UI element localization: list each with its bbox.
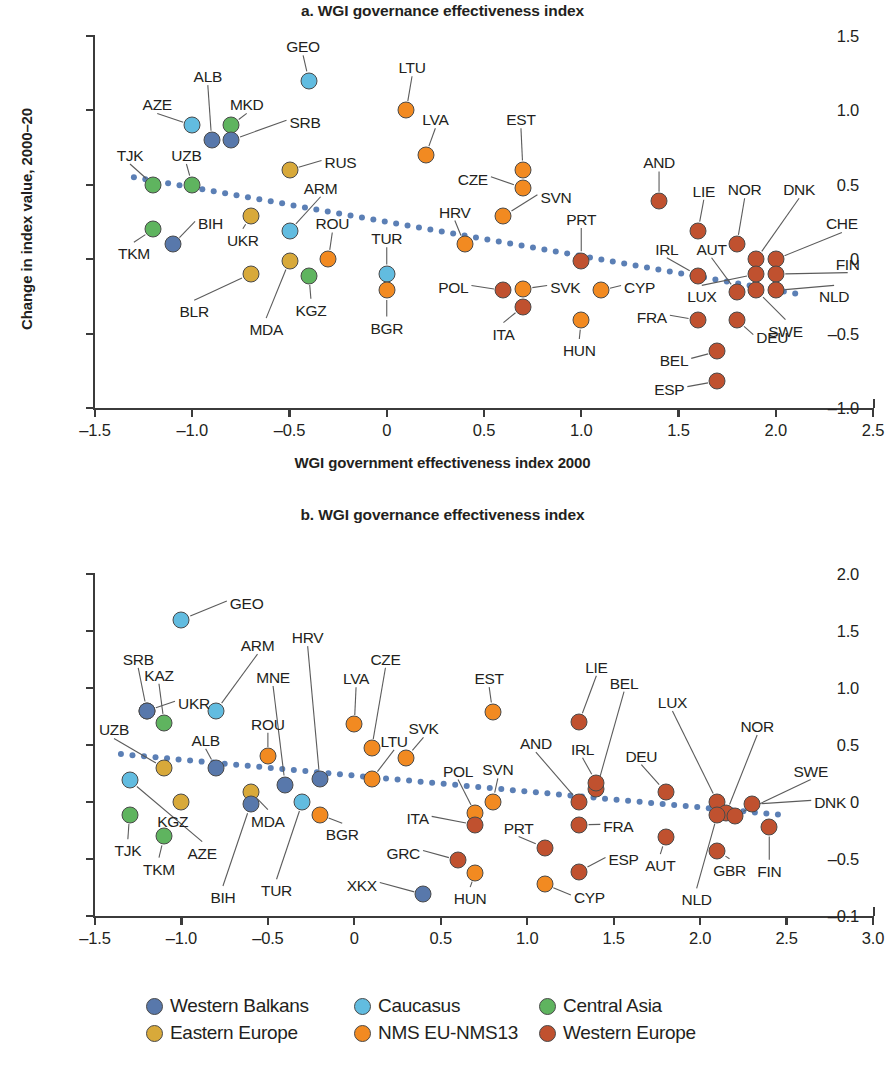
data-point-ukr-panel-a[interactable] [242, 208, 259, 225]
data-point-tjk-panel-b[interactable] [121, 806, 138, 823]
legend-item-eastern-europe[interactable]: Eastern Europe [146, 1022, 354, 1044]
data-point-alb-panel-b[interactable] [208, 759, 225, 776]
data-point-mda-panel-a[interactable] [281, 252, 298, 269]
data-point-fin-panel-a[interactable] [767, 266, 784, 283]
panel-b-leader-line [329, 818, 343, 823]
panel-b-x-tick [440, 916, 442, 925]
data-point-gbr-panel-b[interactable] [709, 843, 726, 860]
data-point-tur-panel-b[interactable] [294, 794, 311, 811]
data-point-xkx-panel-b[interactable] [415, 886, 432, 903]
panel-b-leader-line [380, 883, 415, 892]
data-point-ltu-panel-b[interactable] [363, 771, 380, 788]
data-point-lux-panel-a[interactable] [748, 266, 765, 283]
data-point-bih-panel-b[interactable] [242, 796, 259, 813]
data-point-esp-panel-a[interactable] [709, 373, 726, 390]
legend-item-central-asia[interactable]: Central Asia [539, 995, 739, 1017]
data-point-arm-panel-a[interactable] [281, 222, 298, 239]
data-point-hun-panel-b[interactable] [467, 864, 484, 881]
data-point-bgr-panel-b[interactable] [311, 806, 328, 823]
data-label-svn-panel-b: SVN [482, 761, 513, 779]
data-point-ita-panel-b[interactable] [467, 816, 484, 833]
data-point-swe-panel-a[interactable] [748, 282, 765, 299]
data-point-blr-panel-a[interactable] [242, 266, 259, 283]
data-point-est-panel-a[interactable] [514, 161, 531, 178]
data-point-ukr-panel-b[interactable] [138, 702, 155, 719]
data-point-dnk-panel-b[interactable] [743, 796, 760, 813]
data-point-hrv-panel-b[interactable] [311, 771, 328, 788]
data-point-swe-panel-b[interactable] [726, 807, 743, 824]
data-point-rou-panel-a[interactable] [320, 251, 337, 268]
data-point-and-panel-a[interactable] [651, 193, 668, 210]
data-point-grc-panel-b[interactable] [450, 852, 467, 869]
data-point-cyp-panel-a[interactable] [592, 282, 609, 299]
data-point-est-panel-b[interactable] [484, 703, 501, 720]
panel-b-leader-line [222, 654, 258, 703]
data-point-irl-panel-a[interactable] [689, 267, 706, 284]
data-point-prt-panel-a[interactable] [573, 252, 590, 269]
data-point-ltu-panel-a[interactable] [398, 102, 415, 119]
data-point-prt-panel-b[interactable] [536, 839, 553, 856]
data-point-nor-panel-a[interactable] [728, 236, 745, 253]
data-point-svk-panel-b[interactable] [398, 749, 415, 766]
data-point-esp-panel-b[interactable] [571, 863, 588, 880]
data-point-kgz-panel-b[interactable] [173, 794, 190, 811]
data-point-bgr-panel-a[interactable] [378, 282, 395, 299]
panel-b-leader-line [761, 800, 811, 803]
data-point-arm-panel-b[interactable] [208, 702, 225, 719]
data-point-rou-panel-b[interactable] [259, 748, 276, 765]
panel-b-x-tick-label: 1.5 [602, 929, 624, 948]
data-point-lie-panel-a[interactable] [689, 222, 706, 239]
legend-item-western-balkans[interactable]: Western Balkans [146, 995, 354, 1017]
data-point-cze-panel-b[interactable] [363, 740, 380, 757]
data-point-uzb-panel-a[interactable] [184, 176, 201, 193]
data-point-rus-panel-a[interactable] [281, 161, 298, 178]
data-point-nld-panel-a[interactable] [767, 282, 784, 299]
data-point-cze-panel-a[interactable] [514, 179, 531, 196]
data-point-svn-panel-a[interactable] [495, 208, 512, 225]
data-point-lva-panel-b[interactable] [346, 716, 363, 733]
data-point-kgz-panel-a[interactable] [300, 267, 317, 284]
data-point-svk-panel-a[interactable] [514, 280, 531, 297]
data-point-geo-panel-a[interactable] [300, 72, 317, 89]
data-point-tjk-panel-a[interactable] [145, 176, 162, 193]
data-label-lie-panel-a: LIE [693, 183, 715, 201]
data-point-aze-panel-b[interactable] [121, 772, 138, 789]
legend-item-caucasus[interactable]: Caucasus [354, 995, 539, 1017]
data-point-uzb-panel-b[interactable] [156, 759, 173, 776]
data-point-pol-panel-a[interactable] [495, 282, 512, 299]
data-point-deu-panel-a[interactable] [728, 312, 745, 329]
data-point-fra-panel-b[interactable] [571, 816, 588, 833]
data-point-aze-panel-a[interactable] [184, 117, 201, 134]
panel-b-trendline-dot [153, 754, 159, 760]
data-point-tur-panel-a[interactable] [378, 266, 395, 283]
data-point-deu-panel-b[interactable] [657, 783, 674, 800]
data-point-mne-panel-b[interactable] [277, 776, 294, 793]
data-point-aut-panel-b[interactable] [657, 829, 674, 846]
legend-item-nms-eu-nms13[interactable]: NMS EU-NMS13 [354, 1022, 539, 1044]
data-point-hrv-panel-a[interactable] [456, 236, 473, 253]
data-point-cyp-panel-b[interactable] [536, 876, 553, 893]
legend-item-western-europe[interactable]: Western Europe [539, 1022, 739, 1044]
data-point-bih-panel-a[interactable] [164, 236, 181, 253]
data-point-fin-panel-b[interactable] [761, 819, 778, 836]
data-point-aut-panel-a[interactable] [728, 283, 745, 300]
data-point-srb-panel-a[interactable] [223, 132, 240, 149]
data-point-and-panel-b[interactable] [571, 794, 588, 811]
data-point-tkm-panel-a[interactable] [145, 221, 162, 238]
data-point-svn-panel-b[interactable] [484, 794, 501, 811]
panel-b-trendline-dot [625, 798, 631, 804]
data-point-alb-panel-a[interactable] [203, 132, 220, 149]
panel-a-trendline-dot [644, 264, 650, 270]
panel-a-trendline-dot [279, 200, 285, 206]
data-point-ita-panel-a[interactable] [514, 298, 531, 315]
data-point-fra-panel-a[interactable] [689, 312, 706, 329]
data-point-geo-panel-b[interactable] [173, 611, 190, 628]
data-point-lie-panel-b[interactable] [571, 714, 588, 731]
data-point-irl-panel-b[interactable] [588, 774, 605, 791]
panel-a-trendline-dot [268, 198, 274, 204]
data-point-kaz-panel-b[interactable] [156, 715, 173, 732]
data-point-lva-panel-a[interactable] [417, 147, 434, 164]
data-point-nld-panel-b[interactable] [709, 806, 726, 823]
data-point-hun-panel-a[interactable] [573, 312, 590, 329]
data-point-bel-panel-a[interactable] [709, 343, 726, 360]
